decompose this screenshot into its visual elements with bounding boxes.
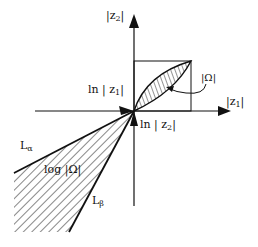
omega-region bbox=[134, 61, 191, 111]
omega-label: |Ω| bbox=[201, 73, 216, 83]
diagram-graphics bbox=[0, 0, 258, 247]
omega-pointer-arrow bbox=[170, 84, 206, 93]
axis-label-z2: |z2| bbox=[106, 10, 124, 23]
ln-z2-label: ln | z2| bbox=[140, 119, 176, 132]
vertical-axis-arrow-icon bbox=[129, 14, 139, 28]
l-beta-label: Lβ bbox=[92, 195, 104, 208]
reinhardt-domain-diagram: |z2| |z1| ln | z1| ln | z2| |Ω| log |Ω| … bbox=[0, 0, 258, 247]
ln-z1-label: ln | z1| bbox=[88, 84, 124, 97]
axis-label-z1: |z1| bbox=[226, 96, 244, 109]
l-alpha-label: Lα bbox=[20, 140, 33, 153]
log-omega-label: log |Ω| bbox=[44, 164, 81, 175]
